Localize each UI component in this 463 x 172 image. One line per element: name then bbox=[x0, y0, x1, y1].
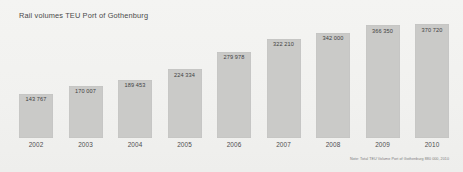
bar-2003[interactable]: 170 007 bbox=[69, 86, 103, 138]
bar-2002[interactable]: 143 767 bbox=[19, 94, 53, 138]
bar-value-label: 189 453 bbox=[118, 82, 152, 88]
bar-group: 366 350 bbox=[366, 24, 400, 138]
bar-chart: Rail volumes TEU Port of Gothenburg 143 … bbox=[0, 0, 463, 172]
bar-value-label: 170 007 bbox=[69, 88, 103, 94]
bar-2008[interactable]: 342 000 bbox=[316, 33, 350, 138]
bar-group: 224 334 bbox=[168, 24, 202, 138]
bar-2007[interactable]: 322 210 bbox=[267, 39, 301, 138]
bar-group: 370 720 bbox=[415, 24, 449, 138]
axis-label-2003: 2003 bbox=[69, 141, 103, 148]
bar-value-label: 224 334 bbox=[168, 72, 202, 78]
bar-group: 143 767 bbox=[19, 24, 53, 138]
bar-group: 342 000 bbox=[316, 24, 350, 138]
axis-label-2009: 2009 bbox=[366, 141, 400, 148]
bar-value-label: 322 210 bbox=[267, 41, 301, 47]
bar-2006[interactable]: 279 978 bbox=[217, 52, 251, 138]
bar-value-label: 342 000 bbox=[316, 35, 350, 41]
axis-label-2002: 2002 bbox=[19, 141, 53, 148]
bar-group: 322 210 bbox=[267, 24, 301, 138]
bar-value-label: 279 978 bbox=[217, 54, 251, 60]
bar-value-label: 366 350 bbox=[366, 28, 400, 34]
bar-group: 170 007 bbox=[69, 24, 103, 138]
x-axis-labels: 2002 2003 2004 2005 2006 2007 2008 2009 … bbox=[19, 141, 449, 148]
axis-label-2004: 2004 bbox=[118, 141, 152, 148]
axis-label-2005: 2005 bbox=[168, 141, 202, 148]
bar-group: 279 978 bbox=[217, 24, 251, 138]
axis-label-2010: 2010 bbox=[415, 141, 449, 148]
axis-label-2007: 2007 bbox=[267, 141, 301, 148]
bar-group: 189 453 bbox=[118, 24, 152, 138]
chart-title: Rail volumes TEU Port of Gothenburg bbox=[19, 11, 148, 20]
bar-2009[interactable]: 366 350 bbox=[366, 25, 400, 138]
bar-value-label: 143 767 bbox=[19, 96, 53, 102]
axis-label-2008: 2008 bbox=[316, 141, 350, 148]
bar-2004[interactable]: 189 453 bbox=[118, 80, 152, 138]
bar-2010[interactable]: 370 720 bbox=[415, 24, 449, 138]
bar-value-label: 370 720 bbox=[415, 27, 449, 33]
bar-2005[interactable]: 224 334 bbox=[168, 69, 202, 138]
axis-label-2006: 2006 bbox=[217, 141, 251, 148]
bars-row: 143 767 170 007 189 453 224 334 bbox=[19, 24, 449, 138]
chart-footnote: Note: Total TEU Volume Port of Gothenbur… bbox=[350, 157, 449, 161]
plot-area: 143 767 170 007 189 453 224 334 bbox=[19, 24, 449, 138]
